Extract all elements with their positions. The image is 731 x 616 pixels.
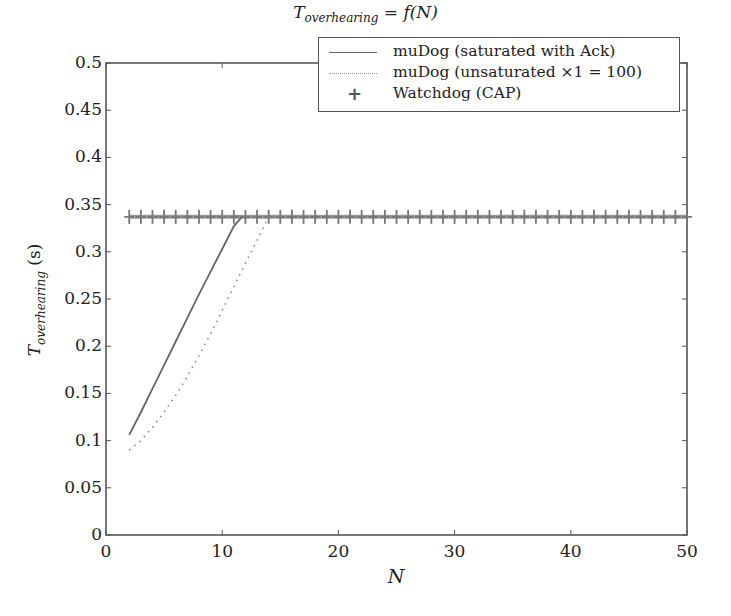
x-tick-label: 10	[211, 541, 233, 561]
x-tick-label: 0	[101, 541, 112, 561]
legend-item-unsaturated: muDog (unsaturated ×1 = 100)	[319, 63, 679, 85]
x-tick-label: 50	[676, 541, 698, 561]
legend-label: muDog (unsaturated ×1 = 100)	[393, 63, 642, 81]
y-axis-label: Toverhearing (s)	[24, 244, 47, 357]
x-axis-label: N	[388, 565, 405, 587]
y-tick-label: 0.25	[64, 288, 102, 308]
y-tick-label: 0.2	[75, 335, 102, 355]
dotted-line-swatch-icon	[329, 73, 377, 74]
axis-tick-labels: 0102030405000.050.10.150.20.250.30.350.4…	[64, 52, 698, 561]
legend-item-saturated: muDog (saturated with Ack)	[319, 42, 679, 64]
saturated-series-line	[129, 217, 242, 435]
axis-ticks	[106, 63, 687, 535]
legend-label: muDog (saturated with Ack)	[393, 42, 615, 60]
y-tick-label: 0.15	[64, 382, 102, 402]
y-tick-label: 0.35	[64, 194, 102, 214]
y-tick-label: 0.4	[75, 146, 102, 166]
y-tick-label: 0.45	[64, 99, 102, 119]
solid-line-swatch-icon	[329, 52, 377, 53]
legend: muDog (saturated with Ack) muDog (unsatu…	[318, 37, 680, 112]
axes-box	[106, 63, 687, 535]
series-layer	[124, 210, 692, 450]
axes-frame	[106, 63, 687, 535]
unsaturated-series-line	[129, 217, 268, 450]
chart-title: Toverhearing = f(N)	[0, 2, 731, 25]
y-tick-label: 0	[91, 524, 102, 544]
legend-item-watchdog: + Watchdog (CAP)	[319, 84, 679, 106]
y-tick-label: 0.05	[64, 477, 102, 497]
y-tick-label: 0.5	[75, 52, 102, 72]
legend-label: Watchdog (CAP)	[393, 84, 521, 102]
y-tick-label: 0.3	[75, 241, 102, 261]
x-tick-label: 30	[444, 541, 466, 561]
plus-marker-icon: +	[347, 83, 362, 104]
x-tick-label: 40	[560, 541, 582, 561]
y-tick-label: 0.1	[75, 430, 102, 450]
x-tick-label: 20	[328, 541, 350, 561]
